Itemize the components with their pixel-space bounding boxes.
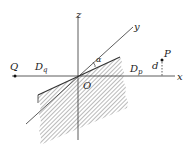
region-Dp-label: Dp: [129, 63, 143, 76]
diagram-canvas: z y x O α Q P d Dq Dp: [0, 0, 193, 165]
x-axis-label: x: [177, 71, 183, 82]
point-P-label: P: [163, 48, 171, 59]
distance-d-label: d: [152, 60, 158, 71]
point-Q-dot: [14, 75, 17, 78]
angle-label: α: [96, 55, 102, 64]
y-axis-label: y: [133, 21, 140, 32]
origin-label: O: [83, 80, 91, 91]
z-axis-label: z: [75, 9, 82, 20]
region-Dq-label: Dq: [34, 61, 48, 74]
point-Q-label: Q: [10, 61, 18, 72]
